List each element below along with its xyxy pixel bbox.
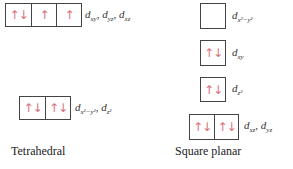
sqp-dxy-box: ↑↓ bbox=[200, 40, 226, 66]
sqp-dxz-dyz-label: dxz, dyz bbox=[244, 119, 272, 134]
square-planar-caption: Square planar bbox=[175, 144, 241, 159]
sqp-dz2-label: dz² bbox=[232, 82, 242, 97]
orbital-box bbox=[201, 4, 225, 28]
orbital-box: ↑↓ bbox=[6, 4, 31, 26]
sqp-dx2y2-box bbox=[200, 3, 226, 29]
orbital-box: ↑↓ bbox=[190, 115, 214, 139]
orbital-box: ↑ bbox=[31, 4, 56, 26]
orbital-box: ↑↓ bbox=[201, 78, 225, 101]
tetra-t2-label: dxy, dyz, dxz bbox=[85, 8, 130, 23]
tetra-e-label: dx²−y², dz² bbox=[75, 101, 111, 116]
sqp-dxz-dyz-boxes: ↑↓ ↑↓ bbox=[189, 114, 239, 140]
tetrahedral-caption: Tetrahedral bbox=[11, 144, 65, 159]
sqp-dxy-label: dxy bbox=[232, 46, 244, 61]
orbital-box: ↑ bbox=[56, 4, 81, 26]
tetra-t2-boxes: ↑↓ ↑ ↑ bbox=[5, 3, 82, 27]
orbital-box: ↑↓ bbox=[214, 115, 238, 139]
orbital-box: ↑↓ bbox=[45, 97, 70, 119]
orbital-box: ↑↓ bbox=[201, 41, 225, 65]
tetra-e-boxes: ↑↓ ↑↓ bbox=[19, 96, 71, 120]
sqp-dz2-box: ↑↓ bbox=[200, 77, 226, 102]
sqp-dx2y2-label: dx²−y² bbox=[232, 9, 253, 24]
orbital-box: ↑↓ bbox=[20, 97, 45, 119]
